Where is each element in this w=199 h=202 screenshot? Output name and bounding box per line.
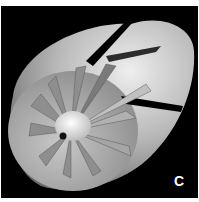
figure-panel: C [1,6,198,198]
turbofan-render [1,6,198,198]
panel-label: C [174,174,184,188]
